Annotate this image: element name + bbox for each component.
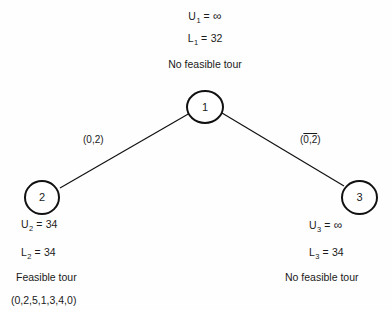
- root-upper-bound-var: U: [188, 10, 196, 22]
- node-1[interactable]: 1: [186, 90, 224, 124]
- edge-label-1-2-body: 0,2: [86, 134, 100, 145]
- right-lower-bound-sub: 3: [315, 252, 319, 261]
- root-upper-bound-equals: =: [204, 10, 211, 22]
- edge-line-1-3: [222, 113, 344, 186]
- edge-label-1-3-body: 0,2: [303, 134, 317, 145]
- node-1-label: 1: [202, 102, 208, 113]
- node-3-label: 3: [356, 192, 362, 203]
- right-upper-bound-sub: 3: [317, 225, 321, 234]
- root-lower-bound-value: 32: [211, 32, 223, 44]
- edge-label-1-3-close: ): [317, 134, 320, 145]
- left-upper-bound-value: 34: [46, 218, 58, 230]
- left-lower-bound-equals: =: [34, 246, 41, 258]
- root-upper-bound-sub: 1: [196, 16, 200, 25]
- right-upper-bound-value: ∞: [334, 218, 343, 232]
- right-upper-bound-var: U: [309, 219, 317, 231]
- root-status: No feasible tour: [168, 59, 242, 71]
- edge-label-1-2-close: ): [100, 134, 103, 145]
- right-upper-bound: U3 = ∞: [309, 219, 342, 232]
- root-lower-bound: L1 = 32: [188, 33, 223, 45]
- node-3[interactable]: 3: [341, 180, 378, 215]
- left-upper-bound-var: U: [21, 218, 29, 230]
- right-lower-bound-value: 34: [332, 246, 344, 258]
- root-upper-bound: U1 = ∞: [188, 10, 221, 23]
- root-lower-bound-equals: =: [201, 32, 208, 44]
- left-lower-bound-sub: 2: [27, 252, 31, 261]
- left-lower-bound-value: 34: [44, 246, 56, 258]
- right-lower-bound: L3 = 34: [309, 247, 344, 259]
- right-status: No feasible tour: [285, 272, 359, 284]
- right-upper-bound-equals: =: [324, 219, 331, 231]
- edge-label-1-3: (0,2): [300, 134, 321, 145]
- left-lower-bound: L2 = 34: [21, 247, 56, 259]
- right-lower-bound-equals: =: [322, 246, 329, 258]
- node-2[interactable]: 2: [24, 180, 60, 215]
- edge-label-1-2: (0,2): [83, 134, 104, 145]
- left-upper-bound-equals: =: [36, 218, 43, 230]
- left-upper-bound: U2 = 34: [21, 219, 57, 231]
- edge-line-1-2: [60, 113, 190, 188]
- left-upper-bound-sub: 2: [29, 224, 33, 233]
- root-lower-bound-sub: 1: [194, 38, 198, 47]
- root-upper-bound-value: ∞: [213, 9, 222, 23]
- node-2-label: 2: [39, 192, 45, 203]
- left-tour-sequence: (0,2,5,1,3,4,0): [11, 295, 76, 307]
- diagram-canvas: U1 = ∞ L1 = 32 No feasible tour 1 (0,2) …: [0, 0, 392, 310]
- left-status: Feasible tour: [16, 272, 77, 284]
